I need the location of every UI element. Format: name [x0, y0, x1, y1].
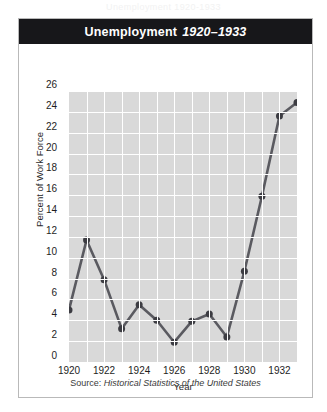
chart-title-years: 1920–1933: [182, 25, 246, 39]
y-tick-24: 24: [46, 99, 57, 110]
gridline-vertical: [227, 91, 228, 362]
y-tick-8: 8: [51, 266, 57, 277]
y-tick-6: 6: [51, 287, 57, 298]
chart-figure: Unemployment 1920–1933 Percent of Work F…: [18, 18, 313, 398]
x-tick-1920: 1920: [58, 365, 80, 376]
y-tick-0: 0: [51, 350, 57, 361]
y-axis-tick-labels: 02468101214161820222426: [33, 84, 57, 356]
y-tick-2: 2: [51, 329, 57, 340]
gridline-vertical: [174, 91, 175, 362]
y-tick-4: 4: [51, 308, 57, 319]
x-tick-1930: 1930: [233, 365, 255, 376]
y-tick-20: 20: [46, 141, 57, 152]
data-point-1920: [69, 306, 73, 313]
x-tick-1924: 1924: [128, 365, 150, 376]
y-tick-18: 18: [46, 162, 57, 173]
chart-title-main: Unemployment: [84, 25, 177, 39]
y-tick-26: 26: [46, 79, 57, 90]
y-tick-14: 14: [46, 204, 57, 215]
gridline-vertical: [209, 91, 210, 362]
gridline-vertical: [122, 91, 123, 362]
gridline-vertical: [104, 91, 105, 362]
faded-header-text: Unemployment 1920-1933: [0, 0, 327, 15]
gridline-vertical: [192, 91, 193, 362]
y-tick-16: 16: [46, 183, 57, 194]
y-tick-22: 22: [46, 120, 57, 131]
x-tick-1928: 1928: [198, 365, 220, 376]
y-tick-12: 12: [46, 224, 57, 235]
gridline-vertical: [139, 91, 140, 362]
source-prefix: Source:: [70, 378, 101, 388]
gridline-vertical: [262, 91, 263, 362]
source-title: Historical Statistics of the United Stat…: [104, 378, 261, 388]
gridline-vertical: [87, 91, 88, 362]
x-tick-1926: 1926: [163, 365, 185, 376]
x-tick-1932: 1932: [268, 365, 290, 376]
gridline-vertical: [297, 91, 298, 362]
gridline-vertical: [157, 91, 158, 362]
y-tick-10: 10: [46, 245, 57, 256]
chart-title-bar: Unemployment 1920–1933: [19, 19, 312, 44]
gridline-vertical: [279, 91, 280, 362]
plot-wrapper: Percent of Work Force 024681012141618202…: [19, 44, 314, 374]
plot-area: [69, 91, 297, 362]
gridline-vertical: [244, 91, 245, 362]
x-tick-1922: 1922: [93, 365, 115, 376]
source-note: Source: Historical Statistics of the Uni…: [19, 378, 312, 388]
